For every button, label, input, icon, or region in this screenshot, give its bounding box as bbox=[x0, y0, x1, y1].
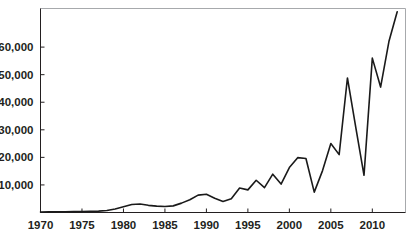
y-tick-label: 40,000 bbox=[0, 96, 34, 108]
x-tick-label: 2000 bbox=[277, 219, 303, 231]
y-tick-label: 60,000 bbox=[0, 41, 34, 53]
x-tick-label: 1990 bbox=[194, 219, 220, 231]
chart-svg: 10,00020,00030,00040,00050,00060,000 197… bbox=[0, 0, 416, 235]
x-tick-label: 1995 bbox=[235, 219, 261, 231]
y-tick-labels: 10,00020,00030,00040,00050,00060,000 bbox=[0, 41, 34, 191]
y-tick-label: 20,000 bbox=[0, 151, 34, 163]
x-tick-label: 2010 bbox=[360, 219, 386, 231]
y-tick-label: 10,000 bbox=[0, 179, 34, 191]
y-tick-label: 50,000 bbox=[0, 69, 34, 81]
x-tick-label: 2005 bbox=[318, 219, 344, 231]
x-tick-label: 1985 bbox=[152, 219, 178, 231]
line-chart: 10,00020,00030,00040,00050,00060,000 197… bbox=[0, 0, 416, 235]
y-tick-label: 30,000 bbox=[0, 124, 34, 136]
x-tick-labels: 197019751980198519901995200020052010 bbox=[28, 219, 385, 231]
x-tick-label: 1980 bbox=[111, 219, 137, 231]
plot-background bbox=[41, 9, 406, 213]
x-tick-label: 1970 bbox=[28, 219, 54, 231]
x-tick-label: 1975 bbox=[69, 219, 95, 231]
